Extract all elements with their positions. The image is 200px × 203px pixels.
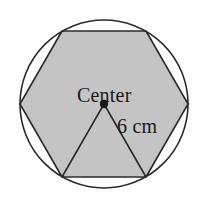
geometry-figure: Center 6 cm	[0, 0, 200, 203]
radius-length-label: 6 cm	[117, 116, 157, 136]
center-label: Center	[77, 85, 132, 105]
